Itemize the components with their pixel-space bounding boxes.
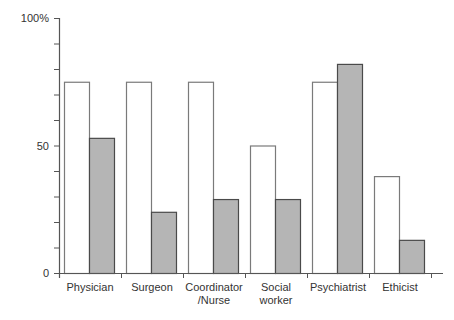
x-category-label: Coordinator/Nurse	[185, 281, 243, 306]
bar-white	[189, 82, 214, 273]
x-axis: PhysicianSurgeonCoordinator/NurseSocialw…	[59, 273, 443, 306]
bar-group	[189, 82, 239, 273]
x-category-label: Surgeon	[131, 281, 173, 293]
y-tick-label: 100%	[21, 12, 49, 24]
bar-gray	[276, 200, 301, 274]
bar-white	[251, 146, 276, 274]
bar-white	[375, 177, 400, 274]
bars-layer	[65, 64, 425, 273]
bar-gray	[152, 212, 177, 273]
y-tick-label: 50	[37, 140, 49, 152]
bar-white	[127, 82, 152, 273]
x-category-label: Psychiatrist	[310, 281, 366, 293]
x-category-label: Socialworker	[258, 281, 292, 306]
x-category-label: Physician	[66, 281, 113, 293]
bar-group	[313, 64, 363, 273]
bar-group	[127, 82, 177, 273]
y-tick-label: 0	[43, 267, 49, 279]
bar-gray	[90, 138, 115, 273]
bar-gray	[214, 200, 239, 274]
x-category-label: Ethicist	[382, 281, 417, 293]
bar-group	[375, 177, 425, 274]
bar-gray	[338, 64, 363, 273]
bar-white	[313, 82, 338, 273]
bar-group	[65, 82, 115, 273]
y-axis: 050100%	[21, 12, 60, 279]
bar-group	[251, 146, 301, 274]
bar-gray	[400, 240, 425, 273]
bar-white	[65, 82, 90, 273]
bar-chart: 050100% PhysicianSurgeonCoordinator/Nurs…	[0, 0, 454, 320]
